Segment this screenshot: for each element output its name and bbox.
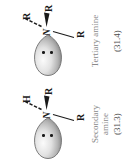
lone-pair-electrons: [42, 50, 55, 54]
lone-pair-lobe: [33, 34, 63, 78]
nitrogen-atom-label: N: [42, 29, 52, 36]
lone-pair-dot: [42, 134, 45, 137]
lone-pair-dot: [50, 51, 53, 54]
equation-number-31-4: (31.4): [112, 0, 122, 82]
wedge-bond-icon: [44, 13, 50, 28]
hashed-substituent-label: R: [22, 13, 32, 20]
secondary-amine-panel: N H R R Secondary amine (31.3): [0, 83, 124, 165]
lone-pair-dot: [42, 51, 45, 54]
nitrogen-atom-label: N: [42, 112, 52, 119]
equation-number-31-3: (31.3): [112, 83, 122, 165]
caption-line-2: amine: [100, 83, 110, 165]
caption-line-1: Tertiary amine: [90, 0, 100, 82]
caption-line-1: Secondary: [90, 83, 100, 165]
secondary-amine-caption: Secondary amine: [90, 83, 110, 165]
lone-pair-lobe-shape: [33, 117, 63, 161]
lone-pair-electrons: [42, 133, 55, 137]
plain-substituent-label: R: [76, 31, 86, 38]
tertiary-amine-caption: Tertiary amine: [90, 0, 100, 82]
lone-pair-lobe: [33, 117, 63, 161]
wedge-substituent-label: R: [44, 88, 54, 95]
tertiary-amine-panel: N R R R Tertiary amine (31.4): [0, 0, 124, 82]
wedge-substituent-label: R: [44, 5, 54, 12]
lone-pair-dot: [50, 134, 53, 137]
lone-pair-lobe-shape: [33, 34, 63, 78]
wedge-bond-icon: [44, 96, 50, 111]
amine-structures-figure: N H R R Secondary amine (31.3): [0, 0, 124, 165]
plain-substituent-label: R: [76, 114, 86, 121]
hashed-substituent-label: H: [22, 95, 32, 103]
